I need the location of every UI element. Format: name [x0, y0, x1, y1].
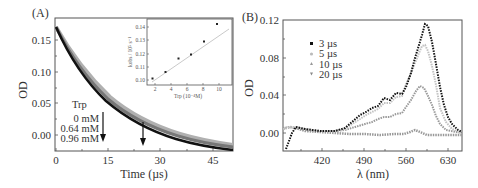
- panel-a-label: (A): [32, 6, 49, 20]
- panel-a-xtick: 0: [53, 154, 59, 166]
- panel-b-series: [283, 24, 462, 149]
- inset-ytick: 0.12: [135, 51, 145, 57]
- panel-b-ytick: 0.04: [260, 89, 280, 101]
- panel-b-ylabel: OD: [242, 79, 256, 97]
- panel-a-xtick: 15: [103, 154, 115, 166]
- panel-a-ytick: 0.00: [32, 129, 52, 141]
- series-10us: [283, 86, 462, 133]
- inset-xlabel: Trp (10⁻⁴M): [174, 93, 202, 100]
- inset-ytick: 0.10: [135, 77, 145, 83]
- panel-a-xtick: 30: [155, 154, 167, 166]
- legend-20us: 20 µs: [319, 69, 342, 80]
- panel-a-xtick: 45: [208, 154, 220, 166]
- panel-b-xtick: 560: [398, 154, 415, 166]
- legend-marker-square-icon: [310, 42, 313, 45]
- panel-a-inset: 0.14 0.13 0.12 0.11 0.10 2 4 6 8 10 Trp …: [127, 19, 232, 100]
- panel-b-xtick: 420: [314, 154, 331, 166]
- inset-xtick: 4: [170, 86, 173, 92]
- series-20us: [283, 127, 462, 135]
- panel-a-xlabel: Time (µs): [120, 167, 167, 181]
- arrow-down-icon: [100, 112, 106, 142]
- inset-xtick: 10: [216, 86, 222, 92]
- panel-a-ytick: 0.10: [32, 66, 52, 78]
- inset-ylabel: kobs / 10⁵ s⁻¹: [127, 37, 133, 68]
- panel-b-ytick: 0.00: [260, 127, 280, 139]
- figure: (A) 0.15 0.10 0.05 0.00 OD 0 15 30 45 Ti…: [0, 0, 478, 188]
- panel-a: (A) 0.15 0.10 0.05 0.00 OD 0 15 30 45 Ti…: [16, 6, 233, 181]
- panel-b-ytick: 0.08: [260, 52, 280, 64]
- panel-b-xlabel: λ (nm): [357, 167, 389, 181]
- panel-b-legend: 3 µs 5 µs 10 µs 20 µs: [310, 38, 342, 80]
- legend-marker-triangle-down-icon: [310, 73, 313, 76]
- inset-ytick: 0.11: [136, 64, 146, 70]
- panel-a-ytick: 0.15: [32, 34, 52, 46]
- inset-xtick: 8: [202, 86, 205, 92]
- inset-xtick: 2: [154, 86, 157, 92]
- panel-b-xtick: 490: [356, 154, 373, 166]
- legend-marker-triangle-icon: [310, 62, 313, 65]
- inset-ytick: 0.14: [135, 24, 145, 30]
- panel-b-ytick: 0.12: [260, 14, 279, 26]
- panel-b-label: (B): [242, 10, 258, 24]
- annotation-trp-title: Trp: [72, 99, 87, 110]
- panel-a-ylabel: OD: [16, 81, 30, 99]
- legend-5us: 5 µs: [319, 48, 337, 59]
- inset-xtick: 6: [186, 86, 189, 92]
- inset-ytick: 0.13: [135, 37, 145, 43]
- panel-b: (B) 0.12 0.08 0.04 0.00 OD 420 490 560 6…: [242, 10, 462, 181]
- panel-a-ytick: 0.05: [32, 97, 52, 109]
- series-5us: [283, 45, 462, 133]
- legend-marker-circle-icon: [310, 52, 313, 55]
- panel-b-xtick: 630: [440, 154, 457, 166]
- annotation-trp-096mM: 0.96 mM: [60, 133, 99, 144]
